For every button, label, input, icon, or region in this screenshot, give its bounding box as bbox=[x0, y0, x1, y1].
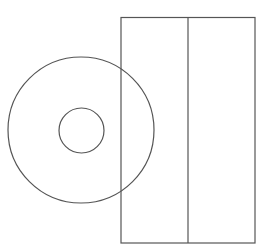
inner-circle bbox=[59, 108, 104, 153]
outer-circle bbox=[8, 57, 154, 203]
diagram-canvas bbox=[0, 0, 277, 250]
